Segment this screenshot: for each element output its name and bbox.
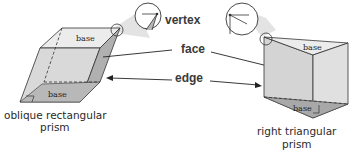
left-caption-line1: oblique rectangular xyxy=(4,109,107,121)
face-leader-left xyxy=(103,50,172,57)
right-caption-line2: prism xyxy=(282,138,312,150)
right-triangular-prism: base base xyxy=(260,33,348,118)
right-vertex-magnifier xyxy=(226,3,258,35)
oblique-rectangular-prism: base base xyxy=(20,24,123,102)
vertex-label: vertex xyxy=(165,13,201,27)
prism-diagram: base base vertex face edge xyxy=(0,0,349,153)
left-caption-line2: prism xyxy=(40,121,70,133)
edge-arrow-left xyxy=(110,78,172,80)
right-bottom-base-label: base xyxy=(293,104,312,113)
right-caption-line1: right triangular xyxy=(257,125,337,137)
left-bottom-base-label: base xyxy=(48,90,67,99)
left-top-base-label: base xyxy=(76,34,95,43)
edge-label: edge xyxy=(175,71,203,85)
right-top-base-label: base xyxy=(303,43,322,52)
face-label: face xyxy=(181,42,205,56)
edge-arrow-right xyxy=(210,81,258,85)
